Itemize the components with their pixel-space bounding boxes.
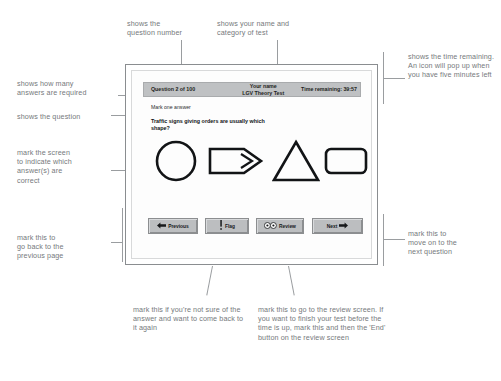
- leader-line-name-category: [277, 40, 278, 64]
- review-button-label: Review: [279, 224, 296, 229]
- annotation-next: mark this to move on to the next questio…: [408, 229, 494, 257]
- mark-one-answer-instruction: Mark one answer: [151, 104, 191, 110]
- answer-options: [152, 137, 357, 185]
- leader-line-question-number: [181, 40, 182, 64]
- right-arrow-icon: [339, 222, 348, 231]
- next-button[interactable]: Next: [312, 218, 363, 234]
- exam-button-bar: Previous Flag: [148, 218, 363, 234]
- leader-line-time-v: [383, 52, 384, 104]
- leader-line-time-h: [383, 78, 405, 79]
- exam-window-inner-panel: Question 2 of 100 Your name LGV Theory T…: [131, 70, 372, 259]
- review-button[interactable]: Review: [256, 218, 304, 234]
- answer-option-circle[interactable]: [154, 139, 198, 187]
- exam-window: Question 2 of 100 Your name LGV Theory T…: [125, 64, 378, 265]
- left-arrow-icon: [157, 222, 166, 231]
- leader-line-review: [288, 266, 295, 296]
- candidate-name-block: Your name LGV Theory Test: [228, 83, 298, 96]
- leader-line-previous-v: [122, 208, 123, 262]
- annotation-mark-screen: mark the screen to indicate which answer…: [17, 148, 117, 185]
- answer-option-rectangle[interactable]: [324, 147, 368, 179]
- eyes-icon: [264, 222, 277, 231]
- previous-button[interactable]: Previous: [148, 218, 198, 234]
- annotation-time: shows the time remaining. An icon will p…: [408, 52, 496, 80]
- flag-button-label: Flag: [225, 224, 235, 229]
- answer-option-arrow[interactable]: [208, 145, 264, 181]
- annotation-name-category: shows your name and category of test: [217, 19, 327, 37]
- question-text: Traffic signs giving orders are usually …: [151, 118, 271, 131]
- test-category: LGV Theory Test: [228, 90, 298, 96]
- annotation-question-number: shows the question number: [127, 19, 207, 37]
- leader-line-next-h: [383, 239, 405, 240]
- time-remaining: Time remaining: 39:57: [298, 86, 360, 92]
- leader-line-flag: [206, 266, 213, 296]
- next-button-label: Next: [327, 224, 338, 229]
- annotation-answers-required: shows how many answers are required: [17, 79, 117, 97]
- annotation-flag: mark this if you're not sure of the answ…: [133, 305, 245, 333]
- flag-button[interactable]: Flag: [205, 218, 249, 234]
- exam-header-bar: Question 2 of 100 Your name LGV Theory T…: [143, 82, 361, 97]
- question-counter: Question 2 of 100: [144, 86, 228, 92]
- leader-line-next-v: [383, 214, 384, 266]
- exclamation-icon: [219, 220, 223, 232]
- previous-button-label: Previous: [168, 224, 189, 229]
- annotation-review: mark this to go to the review screen. If…: [258, 305, 394, 342]
- annotation-question: shows the question: [17, 112, 117, 121]
- answer-option-triangle[interactable]: [272, 139, 320, 187]
- annotation-previous: mark this to go back to the previous pag…: [17, 233, 117, 261]
